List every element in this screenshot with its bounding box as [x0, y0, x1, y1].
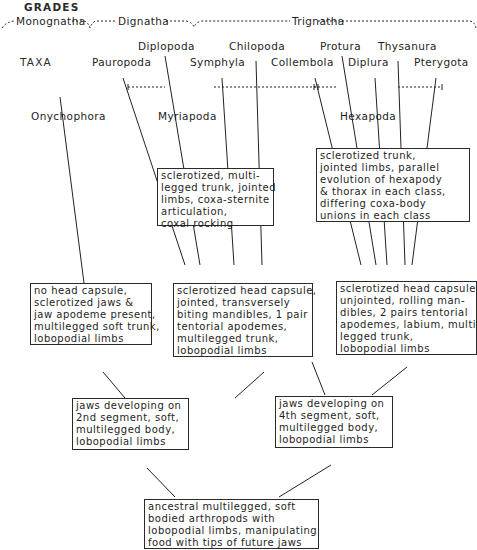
- connector-lines: [0, 0, 477, 550]
- taxon-pauropoda: Pauropoda: [92, 56, 151, 68]
- grade-trignatha: Trignatha: [292, 15, 345, 27]
- taxa-heading: TAXA: [20, 56, 52, 68]
- taxon-protura: Protura: [320, 40, 361, 52]
- box-hexapod-head: sclerotized head capsule, unjointed, rol…: [336, 281, 477, 355]
- grade-monognatha: Monognatha: [16, 15, 86, 27]
- taxon-onychophora: Onychophora: [31, 110, 106, 122]
- taxon-collembola: Collembola: [271, 56, 334, 68]
- taxon-diplura: Diplura: [348, 56, 389, 68]
- box-myriapod-trunk: sclerotized, multi- legged trunk, jointe…: [157, 168, 274, 226]
- taxon-symphyla: Symphyla: [190, 56, 245, 68]
- grades-heading: GRADES: [24, 1, 79, 13]
- box-hexapod-trunk: sclerotized trunk, jointed limbs, parall…: [316, 148, 470, 222]
- group-myriapoda: Myriapoda: [158, 110, 217, 122]
- box-jaws-4th-segment: jaws developing on 4th segment, soft, mu…: [275, 396, 393, 448]
- box-jaws-2nd-segment: jaws developing on 2nd segment, soft, mu…: [72, 398, 189, 450]
- taxon-chilopoda: Chilopoda: [229, 40, 285, 52]
- taxon-pterygota: Pterygota: [414, 56, 469, 68]
- box-onychophora-head: no head capsule, sclerotized jaws & jaw …: [30, 283, 152, 345]
- taxon-diplopoda: Diplopoda: [138, 40, 195, 52]
- taxon-thysanura: Thysanura: [378, 40, 437, 52]
- grade-dignatha: Dignatha: [118, 15, 169, 27]
- box-ancestral: ancestral multilegged, soft bodied arthr…: [144, 499, 319, 549]
- box-myriapod-head: sclerotized head capsule, jointed, trans…: [173, 283, 313, 357]
- group-hexapoda: Hexapoda: [340, 110, 396, 122]
